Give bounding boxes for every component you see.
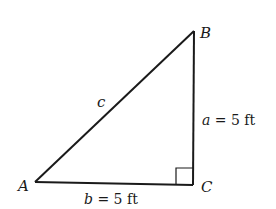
side-b — [35, 182, 193, 185]
side-a — [193, 31, 194, 185]
right-angle-marker — [176, 168, 193, 185]
side-a-var: a — [202, 112, 210, 128]
side-a-value: = 5 ft — [210, 112, 255, 128]
side-b-value: = 5 ft — [93, 191, 138, 207]
vertex-label-a: A — [16, 177, 29, 195]
side-label-b: b = 5 ft — [84, 191, 138, 207]
side-label-c: c — [97, 93, 106, 111]
side-b-var: b — [84, 191, 93, 207]
hypotenuse-c — [35, 31, 194, 182]
side-label-a: a = 5 ft — [202, 112, 256, 128]
vertex-label-b: B — [199, 24, 211, 42]
vertex-label-c: C — [201, 178, 213, 196]
right-triangle-diagram: B A C c a = 5 ft b = 5 ft — [0, 0, 276, 209]
